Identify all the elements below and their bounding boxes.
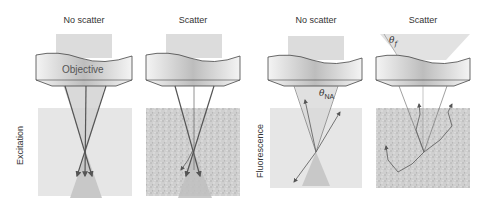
panel-fluorescence-scatter — [376, 34, 470, 188]
theta-na-label: θNA — [319, 88, 334, 100]
panel-excitation-no-scatter — [36, 34, 132, 198]
column-title-excitation-scatter: Scatter — [148, 15, 238, 25]
diagram-canvas — [0, 0, 493, 211]
theta-f-label: θf — [389, 35, 397, 48]
panel-fluorescence-no-scatter — [268, 36, 362, 188]
theta-na-subscript: NA — [324, 93, 334, 100]
objective-label: Objective — [62, 64, 104, 75]
column-title-fluorescence-no-scatter: No scatter — [271, 15, 361, 25]
column-title-fluorescence-scatter: Scatter — [378, 15, 468, 25]
objective-lens — [146, 53, 240, 86]
row-title-fluorescence: Fluorescence — [255, 124, 265, 178]
panel-excitation-scatter — [146, 34, 240, 198]
column-title-excitation-no-scatter: No scatter — [39, 15, 129, 25]
theta-f-subscript: f — [394, 40, 397, 48]
row-title-excitation: Excitation — [15, 126, 25, 165]
